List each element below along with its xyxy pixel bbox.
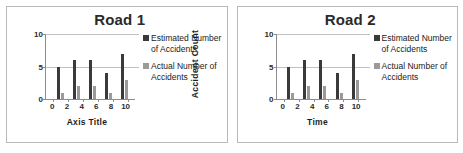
bar-actual (61, 93, 64, 100)
page-title: Road 1 (7, 11, 227, 28)
legend-swatch-icon-estimated (374, 35, 380, 41)
bar-actual (356, 80, 359, 100)
bar-estimated (336, 73, 339, 99)
x-axis-ticks-2: 0246810 (276, 102, 366, 111)
legend-item-estimated-2: Estimated Number of Accidents (374, 33, 455, 54)
x-axis-tick-label: 6 (90, 102, 102, 111)
plot-area-road-1: 0510 0246810 (27, 34, 135, 100)
x-axis-title-2: Time (266, 117, 370, 127)
bar-actual (307, 86, 310, 99)
bar-estimated (352, 54, 355, 100)
bar-actual (291, 93, 294, 100)
legend-swatch-icon-actual (143, 63, 149, 69)
x-axis-tick-label: 6 (321, 102, 333, 111)
bar-group (303, 60, 310, 99)
bar-group (336, 73, 343, 99)
chart-legend-road-1: Estimated Number of Accidents Actual Num… (143, 33, 224, 89)
x-axis-tick-label: 10 (120, 102, 132, 111)
bar-actual (125, 80, 128, 100)
x-axis-ticks: 0246810 (45, 102, 135, 111)
y-axis-title-2: Accident Count (190, 29, 202, 99)
bar-estimated (73, 60, 76, 99)
bar-actual (340, 93, 343, 100)
bar-group (121, 54, 128, 100)
bar-group (73, 60, 80, 99)
bar-group (287, 67, 294, 100)
bar-estimated (89, 60, 92, 99)
y-axis-tick-label: 10 (34, 30, 43, 39)
bar-actual (93, 86, 96, 99)
x-axis-tick-label: 0 (46, 102, 58, 111)
legend-label-actual: Actual Number of Accidents (151, 61, 224, 82)
bar-group (319, 60, 326, 99)
page-title-2: Road 2 (238, 11, 458, 28)
legend-label-estimated: Estimated Number of Accidents (151, 33, 224, 54)
bar-group (352, 54, 359, 100)
bar-estimated (121, 54, 124, 100)
bar-series-container (277, 34, 366, 99)
bar-estimated (57, 67, 60, 100)
bar-actual (323, 86, 326, 99)
x-axis-title: Axis Title (35, 117, 139, 127)
bar-actual (77, 86, 80, 99)
bar-series-container (46, 34, 135, 99)
x-axis-tick-label: 4 (306, 102, 318, 111)
y-axis-tick-mark (43, 99, 46, 100)
bar-group (57, 67, 64, 100)
legend-item-estimated: Estimated Number of Accidents (143, 33, 224, 54)
x-axis-tick-label: 2 (61, 102, 73, 111)
bar-estimated (303, 60, 306, 99)
plot-frame-2: 0510 (276, 34, 366, 100)
legend-item-actual-2: Actual Number of Accidents (374, 61, 455, 82)
legend-label-actual-2: Actual Number of Accidents (382, 61, 455, 82)
x-axis-tick-label: 0 (277, 102, 289, 111)
bar-estimated (105, 73, 108, 99)
chart-panel-road-2: Road 2 Accident Count 0510 0246810 Time … (237, 6, 459, 143)
chart-legend-road-2: Estimated Number of Accidents Actual Num… (374, 33, 455, 89)
bar-group (89, 60, 96, 99)
legend-label-estimated-2: Estimated Number of Accidents (382, 33, 455, 54)
bar-estimated (319, 60, 322, 99)
y-axis-tick-mark (274, 99, 277, 100)
chart-inner-road-2: Road 2 Accident Count 0510 0246810 Time … (238, 7, 458, 142)
x-axis-tick-label: 8 (335, 102, 347, 111)
plot-area-road-2: 0510 0246810 (258, 34, 366, 100)
bar-estimated (287, 67, 290, 100)
bar-actual (109, 93, 112, 100)
y-axis-tick-label: 10 (265, 30, 274, 39)
x-axis-tick-label: 10 (350, 102, 362, 111)
charts-board: Road 1 Accident Count 0510 0246810 Axis … (0, 0, 463, 153)
legend-item-actual: Actual Number of Accidents (143, 61, 224, 82)
x-axis-tick-label: 8 (105, 102, 117, 111)
legend-swatch-icon-actual (374, 63, 380, 69)
bar-group (105, 73, 112, 99)
x-axis-tick-label: 2 (291, 102, 303, 111)
legend-swatch-icon-estimated (143, 35, 149, 41)
plot-frame: 0510 (45, 34, 135, 100)
x-axis-tick-label: 4 (76, 102, 88, 111)
